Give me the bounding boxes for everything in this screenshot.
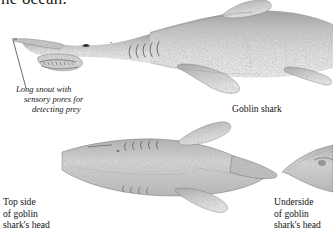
- label-underside-of-head: Underside of goblin shark's head: [274, 196, 321, 231]
- callout-line-2: sensory pores for: [16, 94, 120, 104]
- callout-leader-line: [12, 39, 26, 88]
- label-goblin-shark: Goblin shark: [232, 103, 282, 115]
- callout-line-3: detecting prey: [16, 104, 120, 114]
- underside-line-1: Underside: [274, 196, 321, 208]
- goblin-shark-head-underside-illustration: [282, 145, 333, 192]
- callout-line-1: Long snout with: [16, 84, 71, 94]
- top-side-line-3: shark's head: [3, 219, 50, 231]
- underside-line-3: shark's head: [274, 219, 321, 231]
- illustration-page: he ocean.: [0, 0, 333, 249]
- top-side-line-2: of goblin: [3, 208, 50, 220]
- snout-callout-caption: Long snout with sensory pores for detect…: [16, 84, 120, 115]
- goblin-shark-lateral-illustration: [14, 0, 333, 93]
- label-top-side-of-head: Top side of goblin shark's head: [3, 196, 50, 231]
- top-side-line-1: Top side: [3, 196, 50, 208]
- underside-line-2: of goblin: [274, 208, 321, 220]
- goblin-shark-head-topside-illustration: [62, 122, 277, 213]
